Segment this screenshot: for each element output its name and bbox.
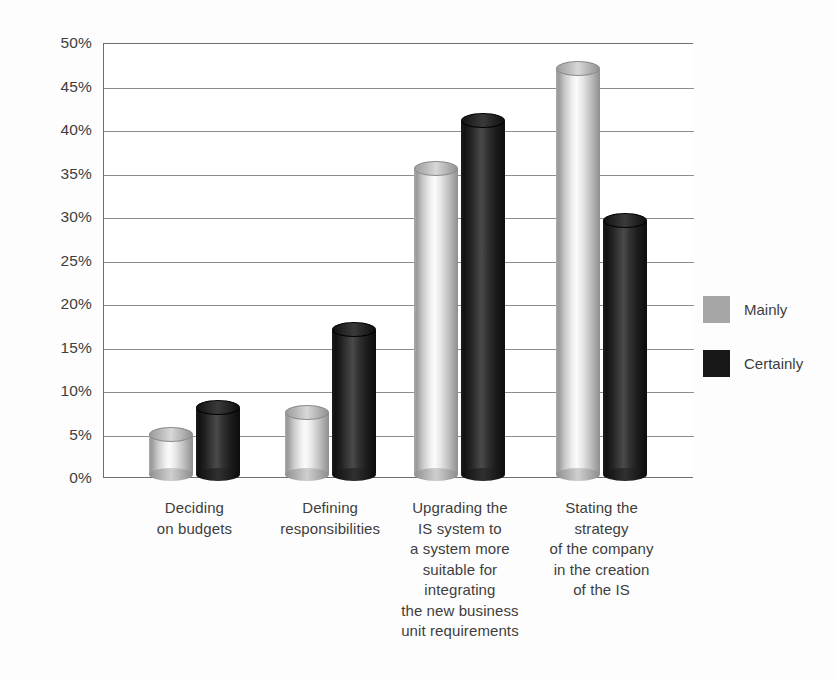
gridline (104, 436, 694, 437)
label-line: Deciding (119, 498, 269, 519)
gridline (104, 175, 694, 176)
y-axis-tick-label: 50% (0, 34, 92, 52)
x-axis-category-label: Decidingon budgets (119, 498, 269, 539)
y-axis-tick-label: 20% (0, 295, 92, 313)
y-axis-tick-label: 15% (0, 339, 92, 357)
label-line: unit requirements (365, 621, 555, 642)
gridline (104, 88, 694, 89)
label-line: strategy (519, 519, 684, 540)
y-axis-tick-label: 35% (0, 165, 92, 183)
legend-item-mainly[interactable]: Mainly (703, 296, 831, 323)
bar-chart: 50%45%40%35%30%25%20%15%10%5%0% Deciding… (0, 0, 837, 679)
legend-label: Certainly (744, 355, 803, 372)
label-line: Stating the (519, 498, 684, 519)
label-line: of the IS (519, 580, 684, 601)
gridline (104, 305, 694, 306)
y-axis-tick-label: 0% (0, 469, 92, 487)
legend: MainlyCertainly (703, 296, 831, 404)
y-axis-tick-label: 45% (0, 78, 92, 96)
y-axis-tick-label: 5% (0, 426, 92, 444)
legend-swatch-light (703, 296, 730, 323)
gridline (104, 131, 694, 132)
label-line: of the company (519, 539, 684, 560)
y-axis-tick-label: 25% (0, 252, 92, 270)
label-line: the new business (365, 601, 555, 622)
label-line: on budgets (119, 519, 269, 540)
gridline (104, 392, 694, 393)
y-axis-tick-label: 30% (0, 208, 92, 226)
y-axis-tick-label: 40% (0, 121, 92, 139)
y-axis-tick-label: 10% (0, 382, 92, 400)
gridline (104, 218, 694, 219)
label-line: in the creation (519, 560, 684, 581)
legend-label: Mainly (744, 301, 787, 318)
legend-item-certainly[interactable]: Certainly (703, 350, 831, 377)
gridline (104, 262, 694, 263)
plot-area (103, 43, 693, 478)
gridline (104, 349, 694, 350)
x-axis-category-label: Stating thestrategyof the companyin the … (519, 498, 684, 601)
legend-swatch-dark (703, 350, 730, 377)
